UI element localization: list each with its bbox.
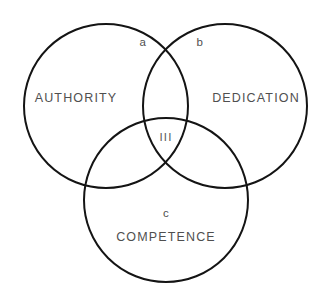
circle-dedication bbox=[143, 24, 307, 188]
venn-diagram: AUTHORITY DEDICATION COMPETENCE a b III … bbox=[0, 0, 330, 300]
set-label-authority: AUTHORITY bbox=[35, 91, 118, 105]
set-label-dedication: DEDICATION bbox=[212, 91, 300, 105]
region-label-b: b bbox=[197, 36, 204, 48]
region-label-a: a bbox=[140, 36, 147, 48]
venn-diagram-canvas: AUTHORITY DEDICATION COMPETENCE a b III … bbox=[0, 0, 330, 300]
region-label-c: c bbox=[163, 207, 169, 219]
set-label-competence: COMPETENCE bbox=[116, 230, 216, 244]
circle-authority bbox=[24, 24, 188, 188]
region-label-center: III bbox=[159, 131, 172, 143]
